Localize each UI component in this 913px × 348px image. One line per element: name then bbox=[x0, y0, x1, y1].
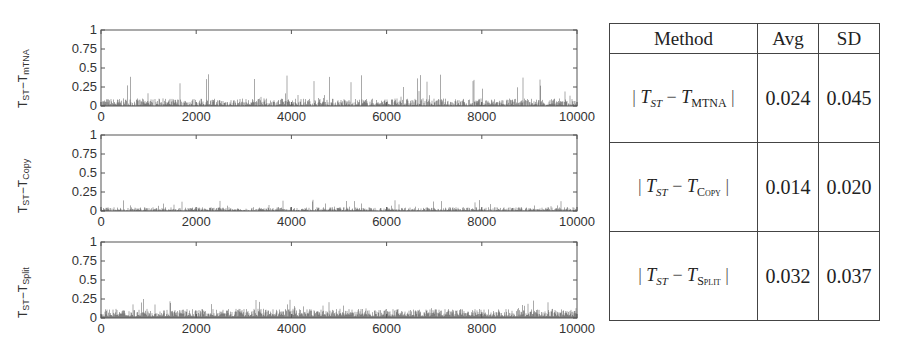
x-tick-label: 0 bbox=[97, 321, 104, 336]
t-symbol: T bbox=[681, 87, 691, 107]
y-tick-label: 0.5 bbox=[79, 272, 97, 287]
sd-cell: 0.020 bbox=[819, 143, 880, 232]
x-tick-label: 2000 bbox=[182, 321, 211, 336]
table-row: | TST − TCopy | 0.014 0.020 bbox=[610, 143, 880, 232]
method-cell: | TST − TMTNA | bbox=[610, 54, 758, 143]
plot-split: TST−TSplit 00.250.50.7510200040006000800… bbox=[0, 0, 600, 108]
x-tick-label: 8000 bbox=[467, 321, 496, 336]
y-tick-label: 1 bbox=[90, 234, 97, 249]
axes-frame bbox=[101, 242, 577, 318]
y-tick-label: 0.75 bbox=[72, 253, 97, 268]
sd-cell: 0.045 bbox=[819, 54, 880, 143]
t-symbol: T bbox=[687, 176, 697, 196]
method-sub: Copy bbox=[697, 185, 721, 199]
x-tick-label: 6000 bbox=[372, 321, 401, 336]
chart-area: 00.250.50.7510200040006000800010000 bbox=[0, 0, 600, 348]
y-tick-label: 0 bbox=[90, 310, 97, 325]
results-table: Method Avg SD | TST − TMTNA | 0.024 0.04… bbox=[609, 23, 880, 321]
table-header-row: Method Avg SD bbox=[610, 24, 880, 54]
x-tick-label: 10000 bbox=[559, 321, 595, 336]
t-symbol: T bbox=[640, 87, 650, 107]
y-tick-label: 0.25 bbox=[72, 291, 97, 306]
x-tick-label: 4000 bbox=[277, 321, 306, 336]
st-sub: ST bbox=[656, 186, 668, 198]
method-cell: | TST − TCopy | bbox=[610, 143, 758, 232]
avg-cell: 0.014 bbox=[758, 143, 819, 232]
header-sd: SD bbox=[819, 24, 880, 54]
minus: − bbox=[667, 87, 677, 107]
minus: − bbox=[672, 265, 682, 285]
header-method: Method bbox=[610, 24, 758, 54]
t-symbol: T bbox=[646, 265, 656, 285]
t-symbol: T bbox=[687, 265, 697, 285]
table-row: | TST − TMTNA | 0.024 0.045 bbox=[610, 54, 880, 143]
avg-cell: 0.024 bbox=[758, 54, 819, 143]
t-symbol: T bbox=[646, 176, 656, 196]
method-cell: | TST − TSplit | bbox=[610, 232, 758, 321]
header-avg: Avg bbox=[758, 24, 819, 54]
sd-cell: 0.037 bbox=[819, 232, 880, 321]
table-row: | TST − TSplit | 0.032 0.037 bbox=[610, 232, 880, 321]
data-series bbox=[102, 299, 577, 318]
st-sub: ST bbox=[650, 97, 662, 109]
method-sub: Split bbox=[697, 274, 721, 288]
minus: − bbox=[672, 176, 682, 196]
st-sub: ST bbox=[656, 275, 668, 287]
method-sub: MTNA bbox=[691, 96, 726, 110]
avg-cell: 0.032 bbox=[758, 232, 819, 321]
